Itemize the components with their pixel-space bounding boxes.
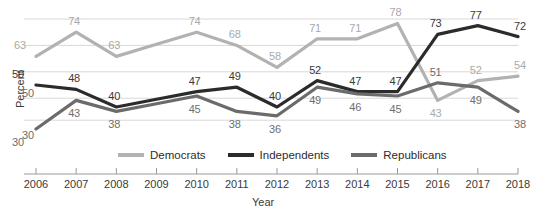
value-label: 38 xyxy=(229,119,241,130)
legend-item-republicans[interactable]: Republicans xyxy=(351,149,446,161)
value-label: 43 xyxy=(430,108,442,119)
value-label: 38 xyxy=(514,119,526,130)
x-axis-tick-2008: 2008 xyxy=(100,178,132,190)
value-label: 74 xyxy=(68,16,80,27)
legend-swatch-icon xyxy=(351,153,377,157)
value-label: 63 xyxy=(108,40,120,51)
legend-swatch-icon xyxy=(118,153,144,157)
value-label: 49 xyxy=(309,95,321,106)
legend-label: Republicans xyxy=(383,149,446,161)
value-label: 36 xyxy=(269,124,281,135)
value-label: 74 xyxy=(189,16,201,27)
x-axis-tick-2007: 2007 xyxy=(60,178,92,190)
x-axis-tick-2013: 2013 xyxy=(301,178,333,190)
legend-item-independents[interactable]: Independents xyxy=(228,149,330,161)
value-label: 71 xyxy=(349,23,361,34)
x-axis-tick-2011: 2011 xyxy=(221,178,253,190)
value-label: 45 xyxy=(390,104,402,115)
value-label: 46 xyxy=(349,102,361,113)
value-label: 51 xyxy=(430,67,442,78)
value-label: 52 xyxy=(309,65,321,76)
legend-swatch-icon xyxy=(228,153,254,157)
value-label: 68 xyxy=(229,29,241,40)
legend-label: Democrats xyxy=(150,149,206,161)
x-axis-tick-2012: 2012 xyxy=(261,178,293,190)
legend-label: Independents xyxy=(260,149,330,161)
value-label: 77 xyxy=(470,10,482,21)
value-label: 73 xyxy=(430,18,442,29)
x-axis-tick-2015: 2015 xyxy=(382,178,414,190)
value-label: 43 xyxy=(68,108,80,119)
x-axis-tick-2018: 2018 xyxy=(502,178,534,190)
y-axis-tick-50: 50 xyxy=(22,87,34,99)
x-axis-tick-2006: 2006 xyxy=(20,178,52,190)
x-axis-tick-2010: 2010 xyxy=(181,178,213,190)
value-label: 63 xyxy=(14,40,26,51)
value-label: 54 xyxy=(514,60,526,71)
value-label: 58 xyxy=(269,51,281,62)
value-label: 50 xyxy=(12,69,24,80)
value-label: 49 xyxy=(470,95,482,106)
value-label: 38 xyxy=(108,119,120,130)
value-label: 72 xyxy=(514,21,526,32)
x-axis-tick-2009: 2009 xyxy=(141,178,173,190)
value-label: 45 xyxy=(189,104,201,115)
value-label: 71 xyxy=(309,23,321,34)
x-axis-tick-2017: 2017 xyxy=(462,178,494,190)
value-label: 48 xyxy=(68,73,80,84)
value-label: 30 xyxy=(12,137,24,148)
value-label: 52 xyxy=(470,65,482,76)
x-axis-tick-2016: 2016 xyxy=(422,178,454,190)
value-label: 78 xyxy=(390,7,402,18)
legend-item-democrats[interactable]: Democrats xyxy=(118,149,206,161)
value-label: 40 xyxy=(108,91,120,102)
value-label: 47 xyxy=(189,76,201,87)
value-label: 40 xyxy=(269,91,281,102)
value-label: 47 xyxy=(390,76,402,87)
value-label: 49 xyxy=(229,71,241,82)
value-label: 47 xyxy=(349,76,361,87)
x-axis-tick-2014: 2014 xyxy=(341,178,373,190)
chart-legend: DemocratsIndependentsRepublicans xyxy=(118,149,447,161)
x-axis-title: Year xyxy=(252,196,274,208)
